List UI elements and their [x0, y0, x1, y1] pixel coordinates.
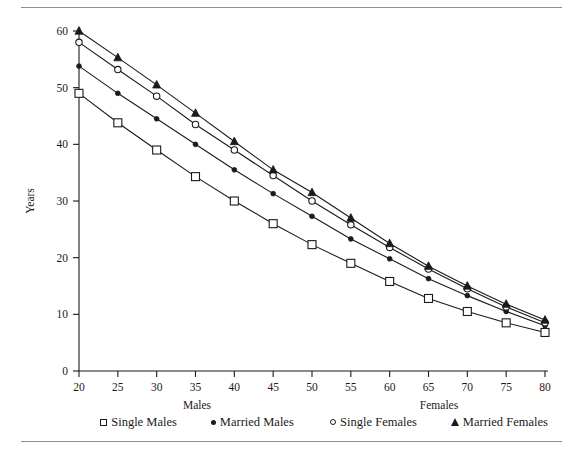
legend-entry-married-females[interactable]: Married Females	[451, 415, 548, 430]
data-point-marker	[154, 116, 159, 121]
data-point-marker	[269, 220, 277, 228]
data-point-marker	[541, 328, 549, 336]
data-point-marker	[425, 262, 433, 270]
legend-group-females: Females Single Females Married Females	[300, 398, 578, 430]
data-point-marker	[347, 214, 355, 222]
y-axis-tick-label: 60	[57, 25, 69, 37]
data-point-marker	[192, 173, 200, 181]
legend-entry-single-males[interactable]: Single Males	[100, 415, 177, 430]
y-axis-tick-label: 0	[62, 365, 68, 377]
x-axis-tick-label: 65	[423, 381, 435, 393]
series-line-0	[79, 93, 545, 332]
data-point-marker	[193, 142, 198, 147]
series-married-females	[75, 27, 549, 324]
chart-plot-area: 010203040506020253035404550556065707580A…	[0, 0, 583, 400]
data-point-marker	[502, 319, 510, 327]
x-axis-tick-label: 70	[462, 381, 474, 393]
legend-label-single-females: Single Females	[340, 415, 417, 430]
x-axis-tick-label: 30	[151, 381, 163, 393]
data-point-marker	[76, 39, 82, 45]
y-axis-title: Years	[24, 188, 36, 214]
data-point-marker	[347, 259, 355, 267]
y-axis-tick-label: 40	[57, 138, 69, 150]
filled-circle-marker-icon	[211, 420, 216, 425]
data-point-marker	[75, 89, 83, 97]
legend-entry-single-females[interactable]: Single Females	[330, 415, 417, 430]
x-axis-tick-label: 20	[73, 381, 85, 393]
data-point-marker	[192, 121, 198, 127]
bottom-divider-rule	[21, 441, 562, 442]
data-point-marker	[75, 27, 83, 35]
data-point-marker	[348, 222, 354, 228]
x-axis-tick-label: 80	[539, 381, 551, 393]
legend-entries-females: Single Females Married Females	[300, 415, 578, 430]
data-point-marker	[77, 64, 82, 69]
x-axis-tick-label: 25	[112, 381, 124, 393]
data-point-marker	[153, 80, 161, 88]
x-axis-tick-label: 40	[229, 381, 241, 393]
x-axis-tick-label: 35	[190, 381, 202, 393]
data-point-marker	[153, 146, 161, 154]
data-point-marker	[192, 109, 200, 117]
x-axis-tick-label: 60	[384, 381, 396, 393]
data-point-marker	[231, 147, 237, 153]
data-point-marker	[386, 277, 394, 285]
figure: 010203040506020253035404550556065707580A…	[0, 0, 583, 454]
legend-label-married-females: Married Females	[463, 415, 548, 430]
open-square-marker-icon	[100, 419, 107, 426]
data-point-marker	[465, 293, 470, 298]
data-point-marker	[114, 119, 122, 127]
data-point-marker	[115, 91, 120, 96]
legend-group-title-males: Males	[62, 398, 332, 413]
data-point-marker	[230, 137, 238, 145]
data-point-marker	[232, 167, 237, 172]
y-axis-tick-label: 30	[57, 195, 69, 207]
legend-group-males: Males Single Males Married Males	[62, 398, 332, 430]
y-axis-tick-label: 10	[57, 308, 69, 320]
legend-entry-married-males[interactable]: Married Males	[211, 415, 294, 430]
filled-triangle-marker-icon	[451, 418, 459, 426]
data-point-marker	[271, 191, 276, 196]
y-axis-tick-label: 20	[57, 252, 69, 264]
series-line-3	[79, 31, 545, 320]
data-point-marker	[310, 214, 315, 219]
data-point-marker	[308, 188, 316, 196]
legend-label-married-males: Married Males	[220, 415, 294, 430]
data-point-marker	[463, 308, 471, 316]
x-axis-tick-label: 45	[267, 381, 279, 393]
chart-legend: Males Single Males Married Males Females…	[0, 398, 583, 442]
data-point-marker	[463, 282, 471, 290]
data-point-marker	[502, 300, 510, 308]
series-line-2	[79, 42, 545, 323]
legend-entries-males: Single Males Married Males	[62, 415, 332, 430]
legend-label-single-males: Single Males	[111, 415, 177, 430]
data-point-marker	[269, 165, 277, 173]
legend-group-title-females: Females	[300, 398, 578, 413]
data-point-marker	[348, 237, 353, 242]
y-axis-tick-label: 50	[57, 82, 69, 94]
data-point-marker	[153, 93, 159, 99]
data-point-marker	[230, 197, 238, 205]
data-point-marker	[387, 256, 392, 261]
open-circle-marker-icon	[330, 419, 336, 425]
series-single-females	[76, 39, 548, 326]
data-point-marker	[308, 241, 316, 249]
data-point-marker	[309, 198, 315, 204]
data-point-marker	[114, 53, 122, 61]
data-point-marker	[425, 294, 433, 302]
x-axis-tick-label: 55	[345, 381, 357, 393]
data-point-marker	[386, 239, 394, 247]
x-axis-tick-label: 75	[500, 381, 512, 393]
x-axis-tick-label: 50	[306, 381, 318, 393]
data-point-marker	[115, 66, 121, 72]
data-point-marker	[426, 276, 431, 281]
line-chart: 010203040506020253035404550556065707580A…	[0, 0, 583, 400]
